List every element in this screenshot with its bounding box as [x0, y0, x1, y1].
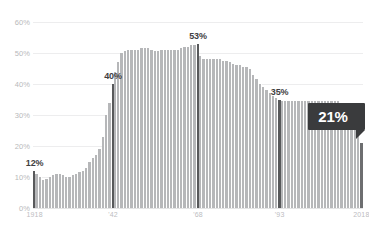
callout-label: 21%	[318, 108, 347, 125]
y-axis-tick-label: 10%	[15, 173, 30, 182]
y-axis-tick-label: 30%	[15, 111, 30, 120]
callout-tail-icon	[356, 130, 365, 139]
x-axis-tick-label: 1918	[26, 211, 42, 218]
value-annotation: 53%	[189, 31, 207, 41]
bar	[360, 143, 362, 208]
bar-chart: 0%10%20%30%40%50%60% 1918'42'68'932018 1…	[0, 0, 369, 242]
y-axis-tick-label: 20%	[15, 142, 30, 151]
value-annotation: 35%	[271, 87, 289, 97]
callout-bubble: 21%	[308, 103, 365, 130]
x-axis-tick-label: '68	[193, 211, 203, 218]
x-axis-tick-label: 2018	[353, 211, 369, 218]
x-axis-baseline	[33, 208, 363, 209]
y-axis-tick-label: 40%	[15, 80, 30, 89]
x-axis-tick-label: '42	[108, 211, 118, 218]
value-annotation: 12%	[26, 158, 44, 168]
value-annotation: 40%	[104, 71, 122, 81]
y-axis-tick-label: 50%	[15, 49, 30, 58]
y-axis-tick-label: 60%	[15, 18, 30, 27]
x-axis-tick-label: '93	[275, 211, 285, 218]
